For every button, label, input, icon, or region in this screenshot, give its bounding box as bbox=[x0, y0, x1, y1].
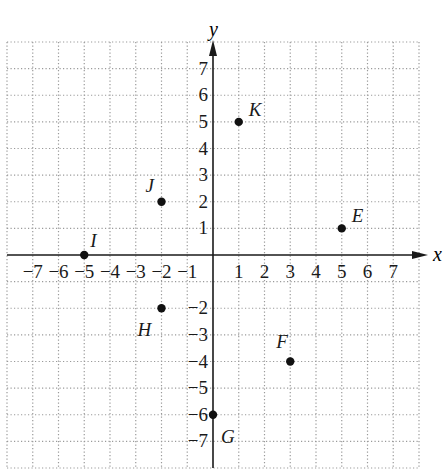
x-tick-label: −5 bbox=[74, 261, 94, 282]
y-tick-label: 4 bbox=[199, 138, 209, 159]
x-tick-label: −7 bbox=[23, 261, 43, 282]
x-tick-label: 5 bbox=[337, 261, 347, 282]
point-g-label: G bbox=[221, 426, 235, 447]
y-tick-label: 5 bbox=[199, 111, 209, 132]
point-j-label: J bbox=[146, 175, 156, 196]
point-i-label: I bbox=[89, 230, 98, 251]
point-k-label: K bbox=[248, 99, 263, 120]
point-i-marker bbox=[80, 251, 88, 259]
point-h-label: H bbox=[137, 319, 153, 340]
y-tick-label: −3 bbox=[188, 324, 208, 345]
y-tick-label: 6 bbox=[199, 84, 209, 105]
y-tick-label: −7 bbox=[188, 430, 208, 451]
coordinate-plane: −7−6−5−4−3−2−11234567 7654321−2−3−4−5−6−… bbox=[0, 0, 445, 474]
x-tick-labels: −7−6−5−4−3−2−11234567 bbox=[23, 261, 398, 282]
x-tick-label: 3 bbox=[286, 261, 296, 282]
x-tick-label: −2 bbox=[151, 261, 171, 282]
x-tick-label: −4 bbox=[100, 261, 121, 282]
x-axis-arrow-icon bbox=[412, 251, 428, 259]
x-tick-label: −1 bbox=[177, 261, 197, 282]
x-tick-label: 6 bbox=[363, 261, 373, 282]
point-g-marker bbox=[209, 411, 217, 419]
y-tick-label: −2 bbox=[188, 297, 208, 318]
plotted-points: KJEIHFG bbox=[80, 99, 364, 447]
y-tick-label: 1 bbox=[199, 217, 209, 238]
point-j-marker bbox=[157, 198, 165, 206]
y-axis-label: y bbox=[207, 18, 218, 41]
point-f-label: F bbox=[275, 331, 288, 352]
point-h-marker bbox=[157, 304, 165, 312]
point-k-marker bbox=[235, 118, 243, 126]
y-tick-label: −6 bbox=[188, 404, 208, 425]
x-tick-label: 4 bbox=[311, 261, 321, 282]
x-tick-label: 1 bbox=[234, 261, 244, 282]
x-tick-label: 7 bbox=[389, 261, 399, 282]
y-tick-label: −4 bbox=[188, 351, 209, 372]
x-tick-label: 2 bbox=[260, 261, 270, 282]
y-tick-label: 3 bbox=[199, 164, 209, 185]
x-axis-label: x bbox=[432, 243, 442, 265]
y-tick-label: −5 bbox=[188, 377, 208, 398]
point-e-label: E bbox=[351, 205, 364, 226]
x-tick-label: −6 bbox=[48, 261, 68, 282]
point-f-marker bbox=[286, 357, 294, 365]
x-tick-label: −3 bbox=[126, 261, 146, 282]
y-tick-label: 7 bbox=[199, 58, 209, 79]
y-tick-label: 2 bbox=[199, 191, 209, 212]
axes bbox=[7, 40, 428, 468]
point-e-marker bbox=[338, 224, 346, 232]
